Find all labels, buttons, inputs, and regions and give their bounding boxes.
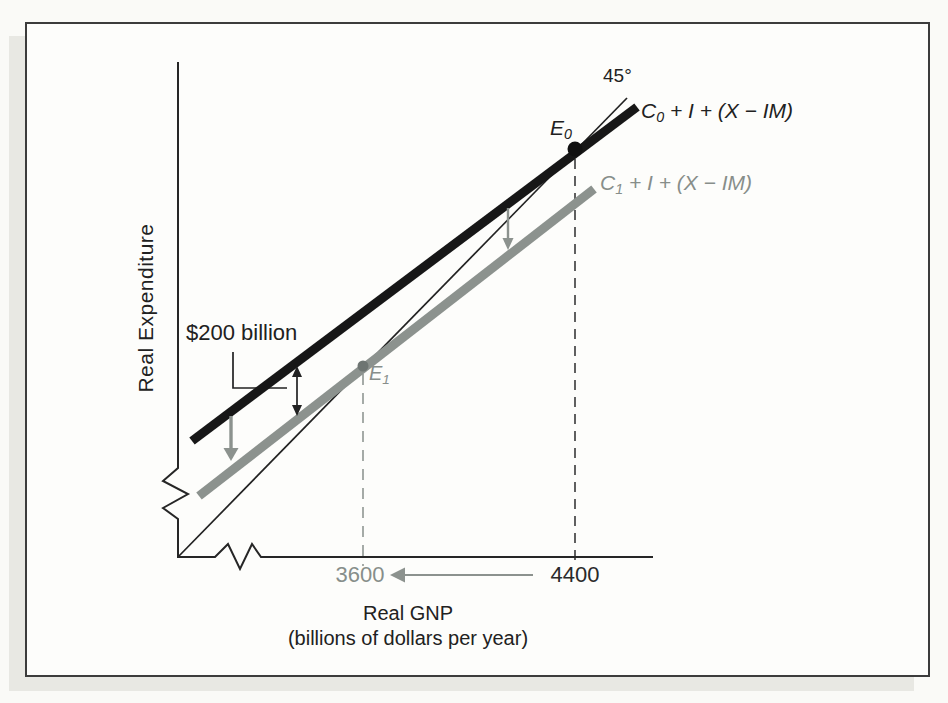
e0-point [568, 142, 583, 157]
gnp-decrease-arrow [390, 568, 533, 583]
c1-symbol: C [600, 171, 615, 194]
figure: Real Expenditure 45° C0 + I + (X − IM) C… [0, 0, 948, 703]
shift-amount-label: $200 billion [186, 321, 297, 345]
c1-line-label: C1 + I + (X − IM) [600, 171, 752, 194]
x-tick-3600: 3600 [320, 563, 400, 587]
c0-subscript: 0 [656, 109, 664, 125]
c0-equation-rest: + I + (X − IM) [664, 99, 793, 122]
e1-label: E1 [369, 362, 390, 384]
x-tick-4400: 4400 [535, 563, 615, 587]
x-axis-title-block: Real GNP (billions of dollars per year) [258, 602, 558, 649]
c0-expenditure-line [192, 107, 637, 441]
e1-point [358, 361, 369, 372]
angle-label: 45° [603, 66, 632, 87]
c0-symbol: C [641, 99, 656, 122]
e0-subscript: 0 [564, 126, 572, 142]
shift-down-arrow-right [503, 208, 514, 250]
e0-symbol: E [550, 116, 564, 139]
shift-bracket [233, 352, 287, 388]
x-axis-title: Real GNP [258, 602, 558, 624]
c1-equation-rest: + I + (X − IM) [623, 171, 752, 194]
e0-label: E0 [550, 116, 572, 139]
e1-subscript: 1 [382, 372, 390, 387]
shift-down-arrow-left [224, 416, 239, 461]
c0-line-label: C0 + I + (X − IM) [641, 99, 793, 122]
shift-double-arrow [292, 366, 302, 416]
axes-with-breaks [163, 62, 653, 569]
y-axis-label: Real Expenditure [134, 223, 157, 392]
c1-subscript: 1 [615, 181, 623, 197]
e1-symbol: E [369, 362, 382, 384]
x-axis-subtitle: (billions of dollars per year) [258, 627, 558, 649]
